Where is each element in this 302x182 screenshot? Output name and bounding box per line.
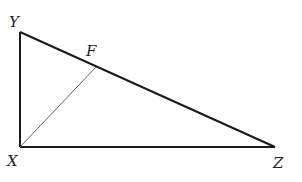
segment-xf xyxy=(20,67,96,147)
triangle-figure: Y F X Z xyxy=(0,0,302,182)
label-y: Y xyxy=(9,13,21,31)
geometry-diagram: Y F X Z xyxy=(0,0,302,182)
label-x: X xyxy=(6,152,19,170)
label-f: F xyxy=(85,42,97,60)
label-z: Z xyxy=(272,154,284,172)
segment-yz xyxy=(20,32,275,147)
